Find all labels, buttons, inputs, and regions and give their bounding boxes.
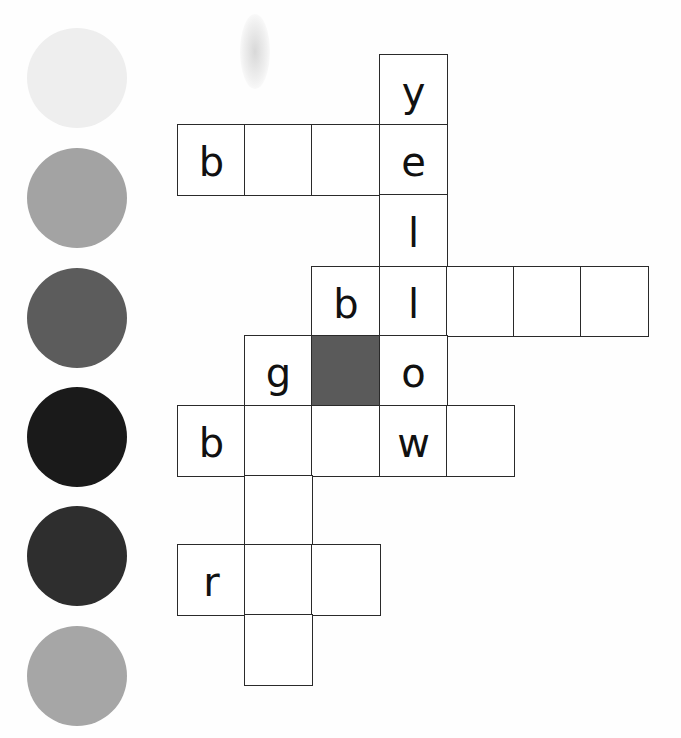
cell-letter: o — [401, 353, 425, 393]
cell-letter: b — [199, 142, 224, 182]
crossword-cell[interactable] — [244, 614, 313, 686]
color-swatch-1 — [27, 28, 127, 128]
crossword-cell[interactable] — [446, 266, 515, 337]
crossword-cell[interactable] — [244, 124, 313, 196]
crossword-cell[interactable] — [580, 266, 649, 337]
cell-letter: e — [401, 142, 426, 182]
crossword-cell[interactable]: w — [379, 405, 448, 477]
color-swatch-6 — [27, 626, 127, 726]
crossword-cell[interactable] — [244, 475, 313, 546]
crossword-cell[interactable] — [446, 405, 515, 477]
crossword-cell[interactable] — [311, 544, 381, 616]
color-swatch-3 — [27, 268, 127, 368]
cell-letter: l — [408, 213, 419, 253]
pencil-smudge — [240, 14, 270, 89]
crossword-cell[interactable]: o — [379, 335, 448, 407]
cell-letter: l — [408, 284, 419, 324]
crossword-cell[interactable] — [513, 266, 582, 337]
crossword-cell[interactable]: e — [379, 124, 448, 196]
crossword-cell[interactable] — [311, 405, 381, 477]
crossword-cell[interactable]: g — [244, 335, 313, 407]
crossword-cell[interactable]: b — [177, 405, 246, 477]
cell-letter: b — [333, 284, 358, 324]
crossword-cell[interactable] — [311, 124, 381, 196]
crossword-cell[interactable] — [244, 405, 313, 477]
color-swatch-5 — [27, 506, 127, 606]
worksheet-page: ybelblgobwr — [0, 0, 681, 738]
cell-letter: g — [266, 353, 291, 393]
cell-letter: r — [203, 562, 219, 602]
crossword-cell[interactable]: b — [177, 124, 246, 196]
crossword-cell[interactable] — [244, 544, 313, 616]
color-swatch-4 — [27, 387, 127, 487]
crossword-cell[interactable]: l — [379, 266, 448, 337]
cell-letter: w — [397, 423, 430, 463]
crossword-cell[interactable]: b — [311, 266, 381, 337]
color-swatch-2 — [27, 148, 127, 248]
cell-letter: b — [199, 423, 224, 463]
crossword-cell[interactable]: y — [379, 54, 448, 126]
crossword-cell[interactable]: r — [177, 544, 246, 616]
crossword-cell-shaded — [311, 335, 381, 407]
crossword-cell[interactable]: l — [379, 194, 448, 268]
cell-letter: y — [402, 72, 426, 112]
